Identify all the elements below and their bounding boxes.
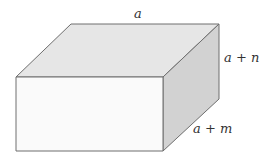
front-face <box>16 77 163 151</box>
label-top-edge: a <box>134 6 142 21</box>
label-bottom-right-edge: a + m <box>193 121 232 136</box>
label-depth-edge: a + n <box>224 50 259 65</box>
cuboid-diagram: a a + n a + m <box>0 0 265 156</box>
